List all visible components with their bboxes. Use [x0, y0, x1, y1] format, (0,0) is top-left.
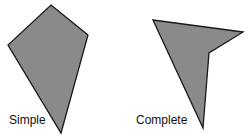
- complete-polygon: [153, 20, 243, 128]
- complete-label: Complete: [136, 113, 187, 127]
- simple-label: Simple: [9, 113, 46, 127]
